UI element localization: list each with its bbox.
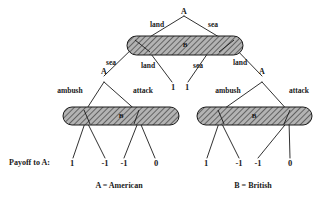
edge-right-term-3: [258, 120, 289, 158]
edge-left-term-2: [86, 120, 105, 158]
tree-graphics: [0, 0, 316, 197]
payoff-left-3: -1: [120, 159, 127, 168]
info-set-right-label: B: [252, 113, 257, 120]
branch-label-right-ambush: ambush: [215, 87, 240, 95]
branch-label-info-sea-left: sea: [106, 59, 116, 67]
edge-right-term-2: [220, 120, 239, 158]
payoff-right-1: 1: [204, 159, 208, 168]
payoff-row-title: Payoff to A:: [9, 159, 50, 167]
branch-label-info-land-mid: land: [141, 62, 155, 70]
branch-label-left-ambush: ambush: [57, 87, 82, 95]
payoff-right-2: -1: [235, 159, 242, 168]
legend-player-a: A = American: [95, 182, 142, 190]
legend-player-b: B = British: [234, 182, 271, 190]
edge-left-term-3: [124, 120, 139, 158]
branch-label-left-attack: attack: [133, 87, 153, 95]
game-tree-diagram: A A A B B B land sea sea land sea land a…: [0, 0, 316, 197]
edge-left-term-4: [139, 120, 155, 158]
edge-right-term-4: [289, 120, 290, 158]
payoff-right-4: 0: [288, 159, 292, 168]
payoff-left-2: -1: [101, 159, 108, 168]
payoff-middle-2: 1: [185, 83, 189, 92]
branch-label-root-land: land: [150, 21, 164, 29]
edge-right-term-1: [207, 120, 220, 158]
branch-label-right-attack: attack: [289, 87, 309, 95]
info-set-left-label: B: [119, 113, 124, 120]
node-right-decision-label: A: [259, 68, 265, 76]
info-set-top-label: B: [183, 42, 188, 49]
node-root-label: A: [181, 8, 187, 16]
payoff-middle-1: 1: [171, 83, 175, 92]
branch-label-info-land-right: land: [233, 59, 247, 67]
branch-label-info-sea-mid: sea: [193, 62, 203, 70]
branch-label-root-sea: sea: [208, 21, 218, 29]
payoff-left-4: 0: [154, 159, 158, 168]
edge-left-term-1: [73, 120, 86, 158]
node-left-decision-label: A: [101, 68, 107, 76]
payoff-left-1: 1: [70, 159, 74, 168]
information-sets: [63, 36, 312, 125]
payoff-right-3: -1: [254, 159, 261, 168]
